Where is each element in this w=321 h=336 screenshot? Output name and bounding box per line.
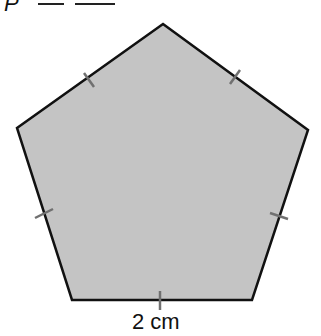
pentagon-shape <box>17 24 308 300</box>
pentagon-figure <box>0 0 321 336</box>
side-length-label: 2 cm <box>132 309 180 335</box>
